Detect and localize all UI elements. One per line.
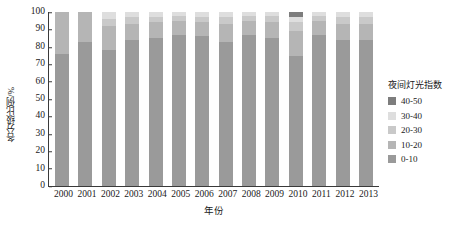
bar-segment[interactable]: [102, 50, 116, 186]
bar-segment[interactable]: [289, 31, 303, 55]
x-tick-label: 2004: [148, 189, 162, 199]
bar-segment[interactable]: [195, 22, 209, 36]
bar-segment[interactable]: [265, 22, 279, 38]
y-tick-label: 60: [36, 77, 50, 87]
bar-column[interactable]: [336, 12, 350, 186]
x-tick-label: 2009: [265, 189, 279, 199]
bar-segment[interactable]: [336, 24, 350, 40]
y-tick-label: 100: [31, 7, 49, 17]
bar-segment[interactable]: [102, 12, 116, 19]
bar-segment[interactable]: [78, 42, 92, 186]
legend-item[interactable]: 40-50: [388, 96, 466, 106]
x-tick-label: 2006: [195, 189, 209, 199]
bar-column[interactable]: [55, 12, 69, 186]
y-tick-label: 20: [36, 146, 50, 156]
legend-item[interactable]: 10-20: [388, 140, 466, 150]
bar-column[interactable]: [125, 12, 139, 186]
bar-column[interactable]: [219, 12, 233, 186]
legend-label: 20-30: [401, 125, 422, 135]
y-tick-label: 90: [36, 25, 50, 35]
bar-column[interactable]: [78, 12, 92, 186]
legend-item[interactable]: 30-40: [388, 111, 466, 121]
bar-segment[interactable]: [172, 21, 186, 35]
legend-title: 夜间灯光指数: [388, 78, 466, 91]
plot-area: 0102030405060708090100: [48, 12, 379, 187]
bar-segment[interactable]: [125, 40, 139, 186]
x-axis-title: 年份: [48, 203, 379, 217]
x-tick-label: 2000: [54, 189, 68, 199]
bar-column[interactable]: [359, 12, 373, 186]
y-tick-label: 40: [36, 112, 50, 122]
stacked-bar-chart: 各分级比例/% 0102030405060708090100 200020012…: [0, 0, 469, 232]
x-axis-tick-labels: 2000200120022003200420052006200720082009…: [48, 189, 379, 199]
bar-column[interactable]: [242, 12, 256, 186]
legend: 夜间灯光指数 40-5030-4020-3010-200-10: [388, 78, 466, 169]
y-tick-label: 70: [36, 59, 50, 69]
bar-segment[interactable]: [55, 54, 69, 186]
bar-segment[interactable]: [242, 35, 256, 186]
bar-column[interactable]: [195, 12, 209, 186]
legend-swatch-icon: [388, 155, 396, 163]
legend-label: 30-40: [401, 111, 422, 121]
y-tick-label: 80: [36, 42, 50, 52]
x-tick-label: 2001: [77, 189, 91, 199]
legend-label: 10-20: [401, 140, 422, 150]
legend-label: 0-10: [401, 154, 418, 164]
y-tick-label: 50: [36, 94, 50, 104]
bar-segment[interactable]: [219, 24, 233, 41]
legend-swatch-icon: [388, 112, 396, 120]
bar-segment[interactable]: [149, 38, 163, 186]
bar-segment[interactable]: [265, 16, 279, 23]
x-tick-label: 2002: [101, 189, 115, 199]
x-tick-label: 2007: [218, 189, 232, 199]
bar-segment[interactable]: [359, 40, 373, 186]
bar-series-container: [49, 12, 379, 186]
x-tick-label: 2005: [171, 189, 185, 199]
y-tick-label: 30: [36, 129, 50, 139]
bar-segment[interactable]: [289, 22, 303, 31]
bar-column[interactable]: [312, 12, 326, 186]
bar-segment[interactable]: [336, 17, 350, 24]
bar-segment[interactable]: [78, 12, 92, 42]
bar-segment[interactable]: [219, 42, 233, 186]
y-axis-title: 各分级比例/%: [2, 50, 18, 180]
bar-column[interactable]: [102, 12, 116, 186]
bar-segment[interactable]: [102, 26, 116, 50]
bar-segment[interactable]: [312, 35, 326, 186]
x-tick-label: 2013: [359, 189, 373, 199]
x-tick-label: 2008: [242, 189, 256, 199]
legend-item[interactable]: 20-30: [388, 125, 466, 135]
legend-swatch-icon: [388, 141, 396, 149]
bar-segment[interactable]: [102, 19, 116, 26]
y-tick-label: 10: [36, 164, 50, 174]
bar-segment[interactable]: [359, 17, 373, 24]
bar-segment[interactable]: [336, 40, 350, 186]
legend-swatch-icon: [388, 97, 396, 105]
bar-segment[interactable]: [149, 22, 163, 38]
bar-segment[interactable]: [195, 36, 209, 186]
legend-item[interactable]: 0-10: [388, 154, 466, 164]
bar-segment[interactable]: [55, 12, 69, 54]
legend-swatch-icon: [388, 126, 396, 134]
bar-column[interactable]: [289, 12, 303, 186]
bar-segment[interactable]: [242, 21, 256, 35]
bar-segment[interactable]: [265, 38, 279, 186]
x-tick-label: 2012: [335, 189, 349, 199]
bar-segment[interactable]: [125, 24, 139, 40]
bar-segment[interactable]: [125, 17, 139, 24]
bar-column[interactable]: [149, 12, 163, 186]
bar-segment[interactable]: [289, 56, 303, 187]
bar-segment[interactable]: [312, 21, 326, 35]
legend-items: 40-5030-4020-3010-200-10: [388, 96, 466, 164]
legend-label: 40-50: [401, 96, 422, 106]
bar-segment[interactable]: [219, 17, 233, 24]
bar-column[interactable]: [172, 12, 186, 186]
bar-segment[interactable]: [172, 35, 186, 186]
x-tick-label: 2011: [312, 189, 326, 199]
x-tick-label: 2010: [289, 189, 303, 199]
x-tick-label: 2003: [124, 189, 138, 199]
bar-segment[interactable]: [359, 24, 373, 40]
bar-column[interactable]: [265, 12, 279, 186]
